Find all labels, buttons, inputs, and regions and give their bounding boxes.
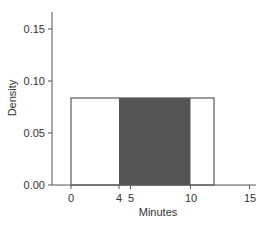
x-tick-label: 4 xyxy=(116,192,122,204)
y-axis-title: Density xyxy=(6,79,18,116)
x-tick-label: 0 xyxy=(68,192,74,204)
y-tick-label: 0.05 xyxy=(24,127,45,139)
y-tick-label: 0.10 xyxy=(24,75,45,87)
x-tick-label: 15 xyxy=(244,192,256,204)
y-tick-label: 0.00 xyxy=(24,179,45,191)
chart-svg: 0.00 0.05 0.10 0.15 Density 0 4 5 10 15 … xyxy=(0,0,266,230)
x-tick-label: 5 xyxy=(128,192,134,204)
y-tick-label: 0.15 xyxy=(24,23,45,35)
x-axis-title: Minutes xyxy=(139,206,178,218)
shaded-region xyxy=(119,98,191,185)
x-tick-label: 10 xyxy=(185,192,197,204)
